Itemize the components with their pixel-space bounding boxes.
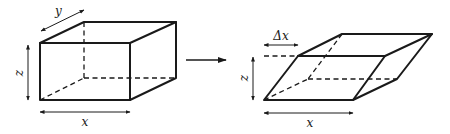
hidden-edge-bottom-left-depth [264,79,308,100]
x-label: x [307,116,314,130]
x-label: x [82,115,89,129]
top-face [298,34,432,56]
z-label: z [237,74,251,82]
sheared-parallelepiped [264,34,432,100]
delta-x-label: Δx [272,29,289,43]
y-label: y [54,4,62,18]
z-label: z [12,69,26,77]
rectangular-box [40,22,176,100]
right-face [353,34,432,100]
shear-deformation-diagram: y z x Δx z x [0,0,450,134]
top-face [40,22,176,43]
y-dimension-arrow [41,10,84,31]
hidden-edge-bottom-left-depth [40,78,84,100]
front-face [40,43,130,100]
right-face [130,22,176,100]
